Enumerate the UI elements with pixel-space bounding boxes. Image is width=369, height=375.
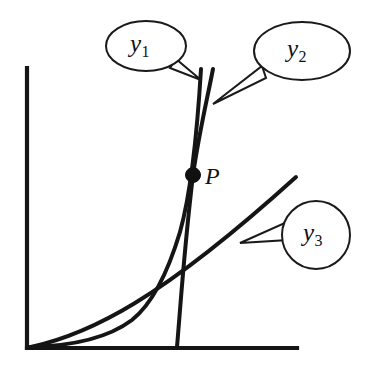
label-y1: y1 bbox=[130, 31, 149, 56]
callout-y2-tail bbox=[213, 66, 266, 104]
label-y2-subscript: 2 bbox=[299, 48, 307, 65]
callout-y3-tail bbox=[240, 222, 288, 243]
curve-y1 bbox=[30, 69, 201, 347]
label-y3-subscript: 3 bbox=[315, 232, 323, 249]
curve-y2 bbox=[177, 69, 213, 347]
label-y2: y2 bbox=[287, 36, 306, 61]
label-point-p-letter: P bbox=[205, 163, 220, 189]
figure-canvas bbox=[0, 0, 369, 375]
curve-y3 bbox=[31, 177, 296, 347]
label-y1-letter: y bbox=[130, 30, 141, 57]
label-point-p: P bbox=[205, 164, 220, 188]
label-y3: y3 bbox=[303, 220, 322, 245]
label-y1-subscript: 1 bbox=[142, 43, 150, 60]
point-p-dot bbox=[186, 168, 201, 183]
label-y3-letter: y bbox=[303, 219, 314, 246]
math-figure: y1 y2 y3 P bbox=[0, 0, 369, 375]
label-y2-letter: y bbox=[287, 35, 298, 62]
